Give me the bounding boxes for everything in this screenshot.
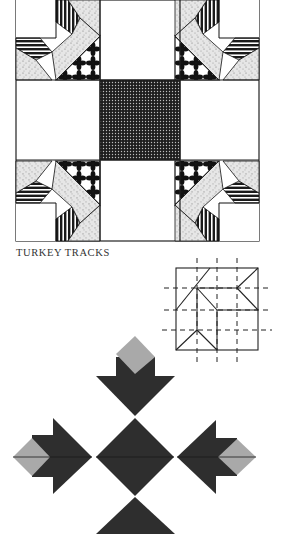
figure-caption: TURKEY TRACKS <box>16 247 110 258</box>
folded-model-illustration <box>0 330 283 538</box>
quilt-block-illustration <box>0 0 283 245</box>
